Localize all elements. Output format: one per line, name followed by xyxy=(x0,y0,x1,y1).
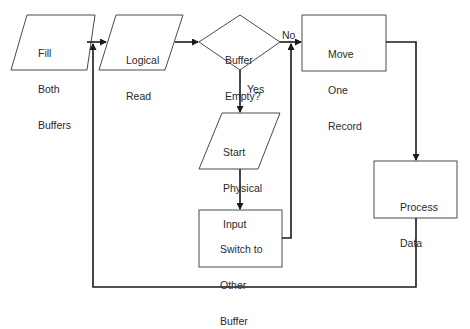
arrow-switch-to-move xyxy=(282,44,291,238)
read-line-1: Logical xyxy=(126,54,159,66)
switch-line-3: Buffer xyxy=(220,315,263,327)
fill-line-2: Both xyxy=(38,83,71,95)
yes-label: Yes xyxy=(247,83,264,95)
no-label: No xyxy=(282,29,295,41)
fill-both-buffers-label: Fill Both Buffers xyxy=(38,23,71,143)
switch-line-2: Other xyxy=(220,279,263,291)
process-data-label: Process Data xyxy=(400,177,438,261)
read-line-2: Read xyxy=(126,90,159,102)
process-line-1: Process xyxy=(400,201,438,213)
start-line-2: Physical xyxy=(223,182,262,194)
arrow-move-to-process xyxy=(386,42,416,160)
process-line-2: Data xyxy=(400,237,438,249)
move-line-2: One xyxy=(328,84,362,96)
switch-line-1: Switch to xyxy=(220,243,263,255)
switch-buffer-label: Switch to Other Buffer xyxy=(220,219,263,329)
move-line-3: Record xyxy=(328,120,362,132)
empty-line-1: Buffer xyxy=(225,54,261,66)
buffer-empty-label: Buffer Empty? xyxy=(225,30,261,114)
move-one-record-label: Move One Record xyxy=(328,24,362,144)
move-line-1: Move xyxy=(328,48,362,60)
logical-read-label: Logical Read xyxy=(126,30,159,114)
fill-line-1: Fill xyxy=(38,47,71,59)
start-line-1: Start xyxy=(223,146,262,158)
fill-line-3: Buffers xyxy=(38,119,71,131)
